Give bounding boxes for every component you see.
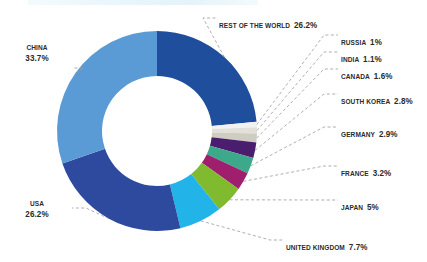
slice-label-south-korea: SOUTH KOREA 2.8% (341, 90, 413, 108)
slice-label-rest-of-the-world: REST OF THE WORLD 26.2% (219, 14, 317, 32)
slice-label-japan-name: JAPAN (341, 204, 363, 213)
donut-slice-usa[interactable] (62, 149, 180, 231)
slice-label-usa: USA 26.2% (10, 200, 63, 219)
slice-label-united-kingdom-value: 7.7% (349, 242, 368, 253)
leader-line-germany (251, 127, 338, 166)
slice-label-usa-value: 26.2% (10, 209, 63, 220)
leader-line-india (257, 52, 338, 130)
leader-line-canada (257, 69, 338, 138)
slice-label-russia: RUSSIA 1% (341, 31, 382, 49)
slice-label-japan-value: 5% (367, 202, 379, 213)
slice-label-russia-name: RUSSIA (341, 39, 366, 48)
donut-slice-group (57, 31, 257, 231)
slice-label-rest-of-the-world-value: 26.2% (294, 20, 317, 31)
slice-label-india-value: 1.1% (363, 54, 382, 65)
slice-label-china: CHINA 33.7% (10, 44, 63, 63)
slice-label-russia-value: 1% (370, 37, 382, 48)
donut-slice-china[interactable] (57, 31, 157, 163)
chart-canvas: CHINA 33.7% USA 26.2% REST OF THE WORLD … (0, 0, 427, 262)
slice-label-germany-name: GERMANY (341, 131, 375, 140)
slice-label-south-korea-value: 2.8% (394, 96, 413, 107)
slice-label-canada-value: 1.6% (374, 71, 393, 82)
slice-label-rest-of-the-world-name: REST OF THE WORLD (219, 22, 290, 31)
leader-line-france (243, 166, 338, 181)
slice-label-united-kingdom: UNITED KINGDOM 7.7% (286, 236, 368, 254)
slice-label-canada: CANADA 1.6% (341, 65, 392, 83)
leader-line-russia (257, 35, 338, 125)
slice-label-france-name: FRANCE (341, 170, 369, 179)
slice-label-france-value: 3.2% (373, 168, 392, 179)
slice-label-china-value: 33.7% (10, 53, 63, 64)
slice-label-france: FRANCE 3.2% (341, 162, 391, 180)
slice-label-germany-value: 2.9% (379, 129, 398, 140)
slice-label-germany: GERMANY 2.9% (341, 123, 398, 141)
slice-label-india-name: INDIA (341, 56, 359, 65)
slice-label-canada-name: CANADA (341, 73, 370, 82)
slice-label-japan: JAPAN 5% (341, 196, 379, 214)
slice-label-united-kingdom-name: UNITED KINGDOM (286, 244, 345, 253)
leader-line-united-kingdom (201, 221, 284, 240)
slice-label-south-korea-name: SOUTH KOREA (341, 98, 390, 107)
leader-line-south-korea (255, 94, 338, 150)
slice-label-india: INDIA 1.1% (341, 48, 382, 66)
donut-slice-rest-of-the-world[interactable] (157, 31, 257, 126)
